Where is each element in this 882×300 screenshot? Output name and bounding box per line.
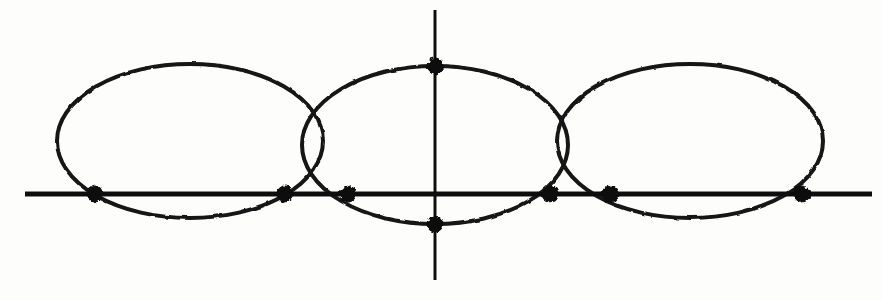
point-4	[427, 58, 443, 74]
ellipse-diagram	[0, 0, 882, 300]
point-6	[542, 186, 558, 202]
point-3	[340, 186, 356, 202]
point-7	[602, 186, 618, 202]
axes-group	[25, 10, 872, 280]
point-2	[277, 186, 293, 202]
marked-points-group	[87, 58, 810, 232]
point-5	[427, 216, 443, 232]
point-1	[87, 186, 103, 202]
ellipse-group	[57, 64, 823, 224]
figure-canvas: Three overlapping ellipses intersected b…	[0, 0, 882, 300]
point-8	[794, 186, 810, 202]
